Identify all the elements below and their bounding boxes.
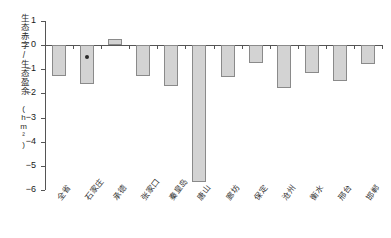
y-tick: −1 — [41, 69, 45, 70]
bar — [108, 39, 122, 45]
y-tick: −5 — [41, 166, 45, 167]
bar — [277, 45, 291, 88]
y-tick-label: −1 — [26, 63, 36, 73]
bar — [361, 45, 375, 64]
bar — [52, 45, 66, 76]
x-axis-label-group: 全省石家庄承德张家口秦皇岛唐山廊坊保定沧州衡水邢台邯郸 — [45, 193, 382, 238]
bar — [249, 45, 263, 62]
y-tick-label: −2 — [26, 87, 36, 97]
y-tick-label: 0 — [31, 39, 36, 49]
bar — [333, 45, 347, 81]
x-tick — [382, 45, 383, 49]
x-tick — [185, 45, 186, 49]
x-tick — [326, 45, 327, 49]
x-tick — [129, 45, 130, 49]
y-tick-label: −6 — [26, 184, 36, 194]
x-tick — [45, 45, 46, 49]
bar — [221, 45, 235, 76]
ecological-deficit-bar-chart: 生态赤字/生态盈余 (hm²) 10−1−2−3−4−5−6 全省石家庄承德张家… — [0, 0, 391, 238]
x-tick — [101, 45, 102, 49]
x-tick — [242, 45, 243, 49]
bar — [164, 45, 178, 86]
bar — [136, 45, 150, 76]
y-tick: −3 — [41, 118, 45, 119]
x-tick — [354, 45, 355, 49]
bar — [192, 45, 206, 182]
y-tick-label: −3 — [26, 112, 36, 122]
y-tick-label: −4 — [26, 136, 36, 146]
y-tick: 1 — [41, 21, 45, 22]
y-tick: −2 — [41, 93, 45, 94]
y-tick-label: −5 — [26, 160, 36, 170]
y-tick-label: 1 — [31, 15, 36, 25]
y-tick: −4 — [41, 142, 45, 143]
x-tick — [270, 45, 271, 49]
bar — [80, 45, 94, 84]
plot-area: 10−1−2−3−4−5−6 — [45, 21, 382, 190]
y-axis-title: 生态赤字/生态盈余 — [6, 14, 28, 174]
bar — [305, 45, 319, 73]
x-tick — [73, 45, 74, 49]
x-tick — [157, 45, 158, 49]
x-tick — [298, 45, 299, 49]
y-tick: −6 — [41, 190, 45, 191]
x-tick — [214, 45, 215, 49]
